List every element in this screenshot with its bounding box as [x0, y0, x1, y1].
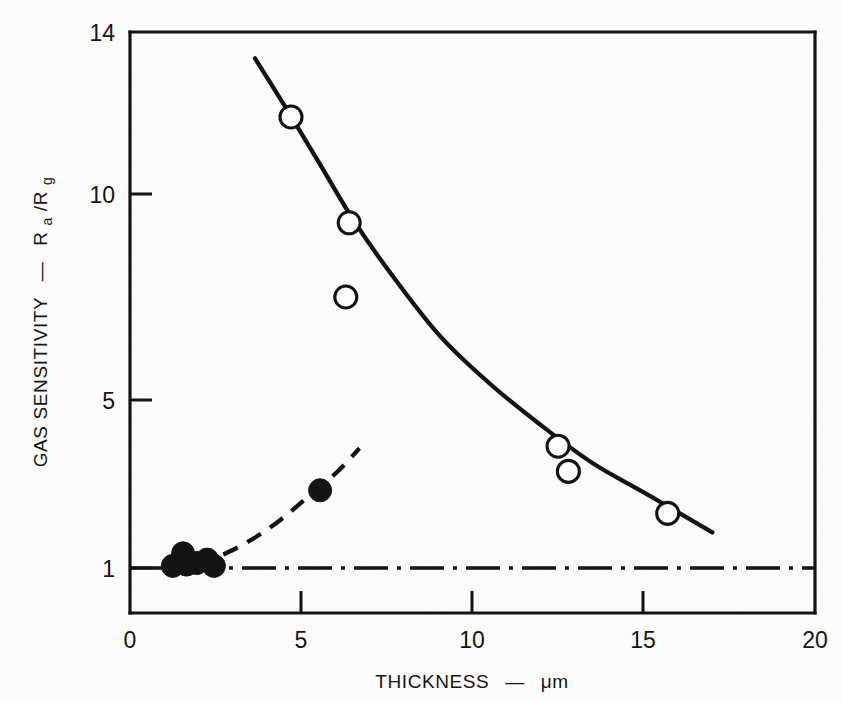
- x-tick-label-20: 20: [802, 627, 828, 653]
- x-tick-label-10: 10: [459, 627, 485, 653]
- data-point-open: [335, 286, 357, 308]
- y-tick-label-14: 14: [89, 20, 115, 46]
- data-point-filled: [202, 554, 225, 577]
- x-axis-title-dash: —: [505, 671, 525, 692]
- data-point-open: [557, 460, 579, 482]
- y-axis-title: GAS SENSITIVITY — R a /R g: [30, 177, 56, 468]
- y-axis-title-r: R: [30, 231, 51, 245]
- y-axis-title-sub-a: a: [39, 217, 55, 225]
- x-tick-label-0: 0: [124, 627, 137, 653]
- y-tick-label-10: 10: [89, 182, 115, 208]
- y-axis-title-main: GAS SENSITIVITY: [30, 297, 51, 467]
- x-tick-label-15: 15: [630, 627, 656, 653]
- svg-text:GAS SENSITIVITY —: GAS SENSITIVITY — R a /R g: [30, 177, 56, 468]
- gas-sensitivity-chart: 14 10 5 1 0 5 10 15 20 GAS SENSITIVITY —…: [0, 0, 842, 701]
- x-axis-title-unit: μm: [541, 671, 569, 692]
- y-axis-title-slash: /R: [30, 191, 51, 211]
- x-tick-label-5: 5: [295, 627, 308, 653]
- data-point-filled: [309, 479, 332, 502]
- x-axis-title: THICKNESS — μm: [375, 671, 569, 692]
- x-axis-title-main: THICKNESS: [375, 671, 489, 692]
- filled-series-fit-curve: [171, 448, 359, 567]
- solid-trend-line: [255, 58, 712, 532]
- filled-circle-points: [161, 479, 331, 578]
- y-axis-title-sub-g: g: [39, 177, 55, 185]
- open-series-fit-curve: [255, 58, 712, 532]
- axis-frame: [130, 32, 815, 613]
- dashed-trend-line: [171, 448, 359, 567]
- y-tick-labels: 14 10 5 1: [89, 20, 115, 582]
- y-axis-title-dash: —: [30, 262, 51, 282]
- x-tick-labels: 0 5 10 15 20: [124, 627, 828, 653]
- svg-text:THICKNESS — μm: THICKNESS — μm: [375, 671, 569, 692]
- data-point-open: [280, 106, 302, 128]
- y-axis-ticks: [130, 194, 152, 568]
- x-axis-ticks: [301, 591, 643, 613]
- open-circle-points: [280, 106, 679, 524]
- y-tick-label-5: 5: [102, 388, 115, 414]
- y-tick-label-1: 1: [102, 556, 115, 582]
- data-point-open: [338, 212, 360, 234]
- data-point-open: [547, 435, 569, 457]
- data-point-open: [657, 502, 679, 524]
- figure-container: 14 10 5 1 0 5 10 15 20 GAS SENSITIVITY —…: [0, 0, 842, 701]
